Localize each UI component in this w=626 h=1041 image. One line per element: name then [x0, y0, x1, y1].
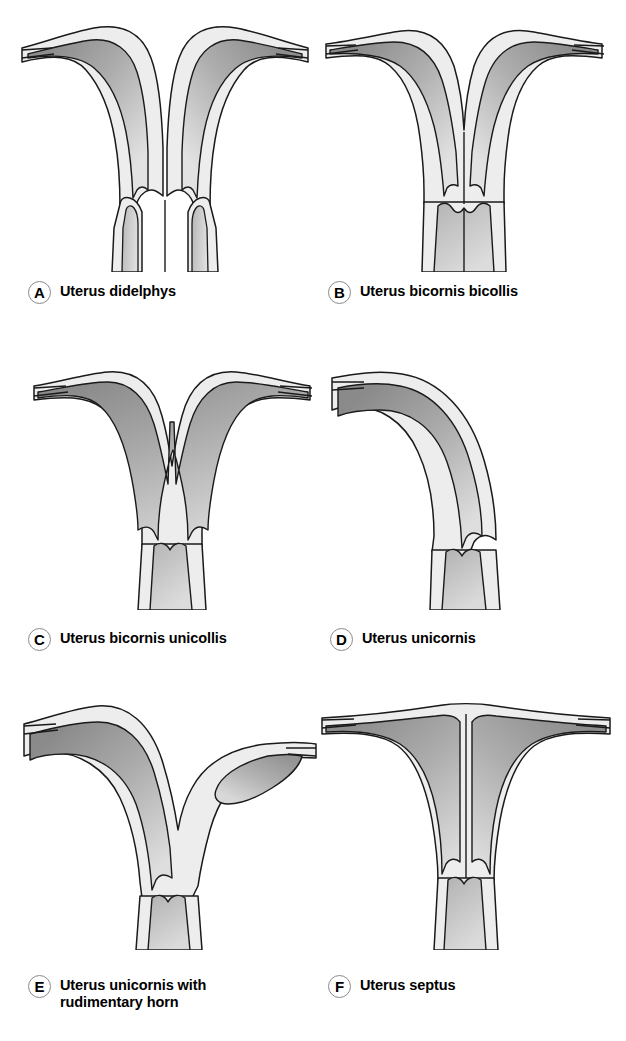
- panel-uterus-septus: [318, 694, 614, 950]
- uterus-bicornis-unicollis-illustration: [28, 360, 318, 610]
- panel-badge-f: F: [328, 975, 351, 998]
- uterus-bicornis-bicollis-illustration: [320, 14, 610, 272]
- caption-uterus-bicornis-unicollis: C Uterus bicornis unicollis: [28, 628, 227, 651]
- panel-badge-c: C: [28, 628, 51, 651]
- panel-label-c: Uterus bicornis unicollis: [60, 628, 227, 647]
- panel-badge-a: A: [28, 281, 51, 304]
- cervical-canal: [148, 895, 190, 950]
- uterus-septus-illustration: [318, 694, 614, 950]
- uterine-body-myometrium: [34, 372, 310, 546]
- cervical-canal: [150, 543, 192, 610]
- panel-uterus-unicornis-rudimentary-horn: [20, 690, 320, 950]
- endometrial-cavity: [338, 384, 482, 548]
- left-horn-group: [22, 27, 163, 208]
- cervical-canal: [442, 549, 486, 610]
- caption-uterus-unicornis: D Uterus unicornis: [330, 628, 476, 651]
- caption-uterus-didelphys: A Uterus didelphys: [28, 281, 176, 304]
- panel-label-d: Uterus unicornis: [362, 628, 476, 647]
- right-cervical-canal: [192, 206, 208, 272]
- panel-uterus-bicornis-bicollis: [320, 14, 610, 272]
- panel-badge-d: D: [330, 628, 353, 651]
- left-cervical-canal: [122, 206, 138, 272]
- panel-uterus-unicornis: [330, 360, 610, 610]
- double-cervix-group: [112, 197, 218, 272]
- figure-sheet: A Uterus didelphys: [0, 0, 626, 1041]
- panel-badge-b: B: [328, 281, 351, 304]
- panel-label-e: Uterus unicornis with rudimentary horn: [60, 975, 206, 1011]
- panel-label-b: Uterus bicornis bicollis: [360, 281, 518, 300]
- uterus-unicornis-illustration: [330, 360, 610, 610]
- caption-uterus-bicornis-bicollis: B Uterus bicornis bicollis: [328, 281, 518, 304]
- uterus-unicornis-rudimentary-horn-illustration: [20, 690, 320, 950]
- panel-label-f: Uterus septus: [360, 975, 455, 994]
- panel-uterus-bicornis-unicollis: [28, 360, 318, 610]
- caption-uterus-septus: F Uterus septus: [328, 975, 455, 998]
- caption-uterus-unicornis-rudimentary-horn: E Uterus unicornis with rudimentary horn: [28, 975, 206, 1011]
- panel-uterus-didelphys: [20, 14, 310, 272]
- uterus-didelphys-illustration: [20, 14, 310, 272]
- panel-badge-e: E: [28, 975, 51, 998]
- panel-label-a: Uterus didelphys: [60, 281, 176, 300]
- right-horn-group: [167, 27, 308, 208]
- cervical-canal: [444, 877, 486, 950]
